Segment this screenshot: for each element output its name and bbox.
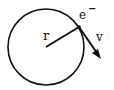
radius-label: r	[43, 28, 50, 43]
velocity-vector	[79, 27, 97, 53]
electron-label: e	[79, 8, 86, 22]
electron-orbit-diagram: r e − v	[0, 0, 114, 90]
velocity-label: v	[95, 30, 103, 44]
arrowhead-icon	[92, 49, 101, 59]
electron-charge-label: −	[88, 3, 96, 14]
radius-line	[46, 27, 79, 47]
